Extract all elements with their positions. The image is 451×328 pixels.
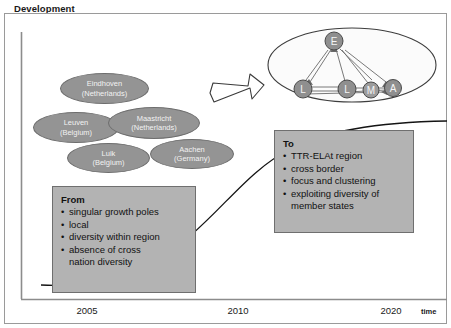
from-bullet-list: singular growth poles local diversity wi…: [61, 206, 195, 269]
from-bullet-item: diversity within region: [61, 231, 195, 244]
city-ellipse-maastricht[interactable]: Maastricht (Netherlands): [108, 107, 200, 139]
city-country: (Belgium): [92, 158, 124, 168]
to-bullet-item: exploiting diversity of member states: [283, 188, 413, 213]
city-country: (Netherlands): [131, 123, 176, 133]
to-bullet-item: TTR-ELAt region: [283, 150, 413, 163]
to-bullet-list: TTR-ELAt region cross border focus and c…: [283, 150, 413, 213]
axis-tick-2005: 2005: [67, 305, 107, 316]
city-name: Leuven: [64, 118, 89, 128]
to-heading: To: [283, 138, 413, 149]
to-bullet-item: focus and clustering: [283, 175, 413, 188]
axis-label-time: time: [421, 307, 436, 316]
svg-text:A: A: [390, 83, 397, 94]
to-bullet-item: cross border: [283, 163, 413, 176]
svg-text:L: L: [344, 84, 350, 95]
city-name: Eindhoven: [87, 79, 122, 89]
city-ellipse-luik[interactable]: Luik (Belgium): [67, 143, 150, 173]
svg-text:L: L: [300, 84, 306, 95]
from-bullet-item: absence of cross nation diversity: [61, 244, 195, 269]
from-textbox[interactable]: From singular growth poles local diversi…: [52, 186, 196, 293]
city-ellipse-eindhoven[interactable]: Eindhoven (Netherlands): [60, 73, 149, 104]
city-name: Maastricht: [137, 114, 172, 124]
city-name: Luik: [102, 149, 116, 159]
svg-text:M: M: [367, 85, 375, 96]
city-country: (Germany): [174, 154, 210, 164]
axis-tick-2010: 2010: [218, 305, 258, 316]
from-bullet-item: singular growth poles: [61, 206, 195, 219]
city-ellipse-leuven[interactable]: Leuven (Belgium): [33, 112, 119, 143]
svg-text:E: E: [331, 36, 338, 47]
city-country: (Belgium): [60, 128, 92, 138]
axis-tick-2020: 2020: [371, 305, 411, 316]
city-country: (Netherlands): [82, 89, 127, 99]
from-heading: From: [61, 194, 195, 205]
slide-canvas: Development: [0, 0, 451, 328]
to-textbox[interactable]: To TTR-ELAt region cross border focus an…: [274, 130, 414, 233]
city-ellipse-aachen[interactable]: Aachen (Germany): [150, 139, 234, 169]
city-name: Aachen: [179, 145, 204, 155]
block-arrow-up-right-icon: [210, 74, 264, 102]
from-bullet-item: local: [61, 219, 195, 232]
